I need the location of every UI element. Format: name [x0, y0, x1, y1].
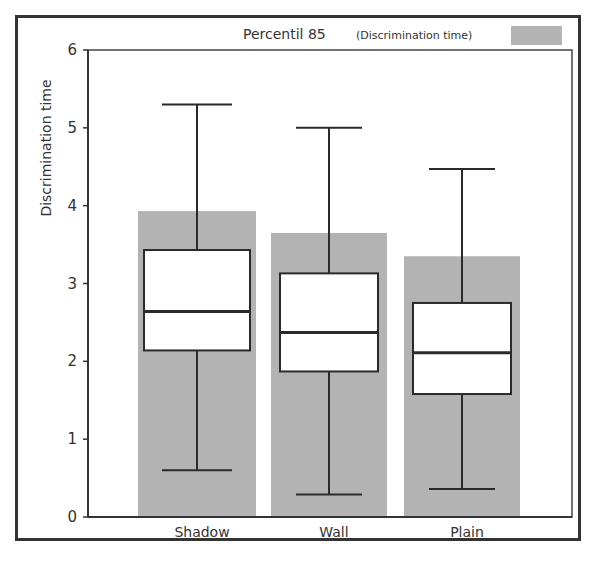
x-tick-label-wall: Wall	[319, 524, 348, 540]
y-ticks: 0123456	[67, 41, 88, 526]
x-tick-labels: ShadowWallPlain	[174, 524, 483, 540]
x-tick-label-plain: Plain	[450, 524, 484, 540]
iqr-box	[144, 250, 250, 350]
y-tick-label: 3	[67, 275, 77, 293]
y-tick-label: 5	[67, 119, 77, 137]
iqr-box	[280, 273, 378, 371]
y-tick-label: 6	[67, 41, 77, 59]
legend: Percentil 85 (Discrimination time)	[243, 26, 562, 45]
legend-sublabel: (Discrimination time)	[356, 29, 472, 42]
x-tick-label-shadow: Shadow	[174, 524, 229, 540]
y-tick-label: 4	[67, 197, 77, 215]
legend-swatch	[511, 26, 562, 45]
iqr-box	[413, 303, 511, 394]
y-axis-label: Discrimination time	[38, 79, 54, 216]
y-tick-label: 2	[67, 352, 77, 370]
y-tick-label: 0	[67, 508, 77, 526]
legend-label: Percentil 85	[243, 26, 326, 42]
chart-canvas: Discrimination time 0123456 ShadowWallPl…	[0, 0, 601, 578]
y-tick-label: 1	[67, 430, 77, 448]
